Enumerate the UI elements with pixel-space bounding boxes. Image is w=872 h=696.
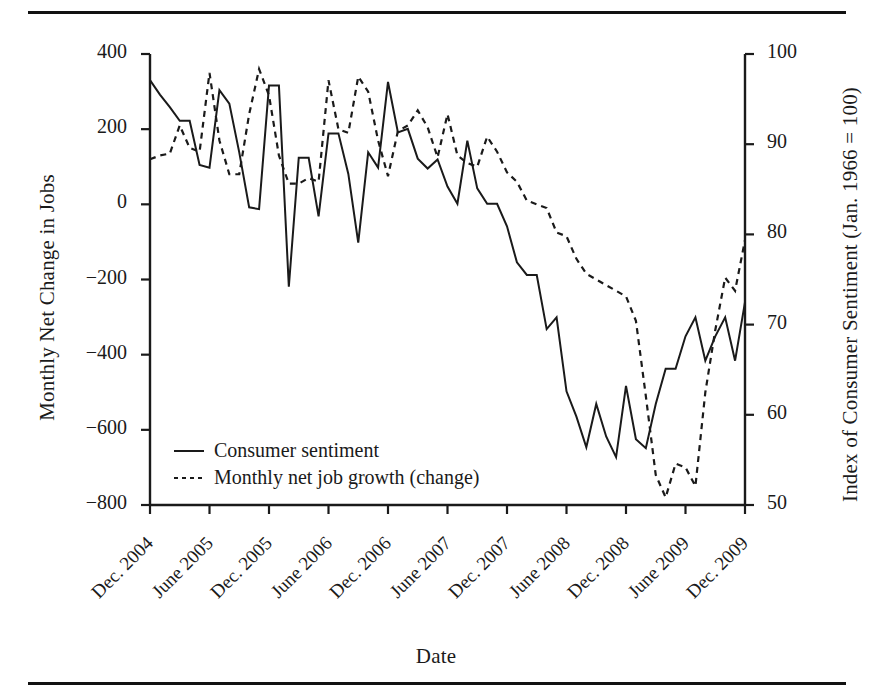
y-right-tick-5: 50 (767, 491, 847, 514)
right-axis-ticks (745, 54, 754, 505)
y-left-tick-1: 200 (47, 115, 127, 138)
y-right-tick-4: 60 (767, 401, 847, 424)
data-series-group (150, 69, 745, 497)
figure-container: Monthly Net Change in Jobs Index of Cons… (0, 0, 872, 696)
y-left-tick-6: −800 (47, 491, 127, 514)
y-left-tick-3: −200 (47, 266, 127, 289)
bottom-axis-ticks (150, 505, 745, 514)
y-right-tick-2: 80 (767, 220, 847, 243)
x-axis-title: Date (0, 644, 872, 669)
left-axis-ticks (141, 54, 150, 505)
y-left-tick-5: −600 (47, 416, 127, 439)
y-left-tick-2: 0 (47, 190, 127, 213)
y-left-tick-0: 400 (47, 40, 127, 63)
chart-legend: Consumer sentiment Monthly net job growt… (172, 437, 480, 491)
y-right-tick-0: 100 (767, 40, 847, 63)
legend-label-consumer-sentiment: Consumer sentiment (214, 437, 379, 464)
y-right-tick-3: 70 (767, 311, 847, 334)
legend-item-monthly-net-job-growth: Monthly net job growth (change) (172, 464, 480, 491)
chart-plot-area (0, 0, 872, 696)
y-axis-right-title: Index of Consumer Sentiment (Jan. 1966 =… (838, 45, 863, 545)
legend-label-monthly-net-job-growth: Monthly net job growth (change) (214, 464, 480, 491)
legend-item-consumer-sentiment: Consumer sentiment (172, 437, 480, 464)
series-line-monthly-net-job-growth (150, 69, 745, 497)
series-line-consumer-sentiment (150, 80, 745, 457)
y-left-tick-4: −400 (47, 341, 127, 364)
y-axis-left-title: Monthly Net Change in Jobs (35, 88, 60, 508)
legend-key-dotted-line (172, 471, 206, 485)
legend-key-solid-line (172, 444, 206, 458)
y-right-tick-1: 90 (767, 130, 847, 153)
